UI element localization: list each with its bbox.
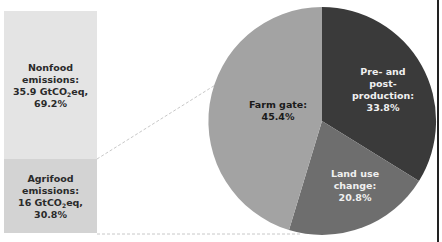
pre-post-label-line3: production: <box>338 90 428 102</box>
land-use-percent: 20.8% <box>310 192 400 204</box>
right-border-line <box>437 0 439 242</box>
pre-post-percent: 33.8% <box>338 102 428 114</box>
pre-post-label-line1: Pre- and <box>338 66 428 78</box>
farm-gate-label: Farm gate: 45.4% <box>238 99 318 123</box>
pre-post-label-line2: post- <box>338 78 428 90</box>
land-use-label-line2: change: <box>310 180 400 192</box>
land-use-label: Land use change: 20.8% <box>310 168 400 204</box>
farm-gate-label-line1: Farm gate: <box>238 99 318 111</box>
pre-post-label: Pre- and post- production: 33.8% <box>338 66 428 114</box>
farm-gate-percent: 45.4% <box>238 111 318 123</box>
pie-chart <box>0 0 442 242</box>
land-use-label-line1: Land use <box>310 168 400 180</box>
